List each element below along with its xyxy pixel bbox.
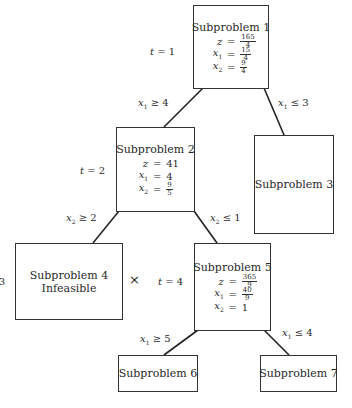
edge-label-sp1-sp2: x1 ≥ 4 (138, 97, 169, 110)
node-subproblem-2: Subproblem 2 z=41 x1=4 x2= 95 (116, 127, 195, 212)
pruned-x-icon: × (129, 272, 140, 287)
x2-value: 94 (240, 60, 246, 75)
edge-sp2-sp4 (93, 211, 119, 243)
node-subproblem-5: Subproblem 5 z= 3659 x1= 409 x2=1 (194, 243, 271, 331)
edge-label-sp2-sp5: x2 ≤ 1 (210, 212, 241, 225)
x1-value: 409 (242, 287, 253, 302)
x2-value: 1 (242, 302, 248, 313)
t-label-2: t = 2 (80, 165, 105, 176)
node-title: Subproblem 4 (30, 269, 109, 282)
node-title: Subproblem 6 (119, 367, 198, 380)
z-value: 41 (166, 158, 179, 169)
var-x2: x2 (206, 60, 222, 75)
edge-sp1-sp3 (264, 88, 284, 135)
node-title: Subproblem 5 (193, 261, 272, 274)
node-title: Subproblem 1 (192, 21, 271, 34)
node-subproblem-6: Subproblem 6 (118, 355, 198, 392)
edge-label-sp5-sp7: x1 ≤ 4 (282, 327, 313, 340)
node-title: Subproblem 3 (255, 178, 334, 191)
node-title: Subproblem 2 (116, 143, 195, 156)
edge-label-sp2-sp4: x2 ≥ 2 (66, 212, 97, 225)
node-subproblem-1: Subproblem 1 z= 1654 x1= 154 x2= 94 (193, 5, 269, 89)
node-subproblem-4: Subproblem 4 Infeasible (15, 243, 123, 320)
t-label-1: t = 1 (150, 46, 175, 57)
edge-label-sp5-sp6: x1 ≥ 5 (140, 333, 171, 346)
t-label-4: t = 4 (158, 276, 183, 287)
node-subproblem-3: Subproblem 3 (254, 135, 334, 234)
node-subproblem-7: Subproblem 7 (260, 355, 337, 392)
infeasible-status: Infeasible (42, 282, 97, 295)
edge-sp1-sp2 (164, 88, 203, 127)
x2-value: 95 (166, 182, 172, 197)
node-title: Subproblem 7 (259, 367, 338, 380)
t-label-3: t = 3 (0, 276, 5, 287)
var-z: z (206, 36, 222, 47)
edge-label-sp1-sp3: x1 ≤ 3 (278, 97, 309, 110)
